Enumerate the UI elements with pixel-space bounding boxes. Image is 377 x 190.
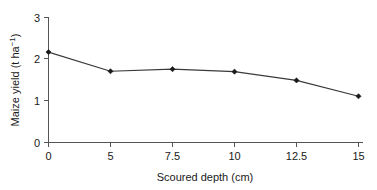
y-axis-title: Maize yield (t ha−1) [8,34,21,127]
x-tick-label-5: 15 [352,150,364,162]
y-tick-label-0: 0 [34,137,40,149]
x-axis-title: Scoured depth (cm) [157,171,254,183]
x-tick-label-2: 7.5 [165,150,180,162]
x-tick-label-3: 10 [228,150,240,162]
y-tick-label-2: 2 [34,53,40,65]
chart-figure: 3 2 1 0 0 5 7.5 10 12.5 15 Scoured depth… [0,0,377,190]
y-tick-label-3: 3 [34,12,40,24]
y-tick-label-1: 1 [34,95,40,107]
x-tick-label-1: 5 [107,150,113,162]
x-tick-label-4: 12.5 [286,150,307,162]
x-tick-label-0: 0 [45,150,51,162]
y-axis-title-main: Maize yield (t ha [9,45,21,126]
y-axis-title-tail: ) [9,34,21,38]
line-chart: 3 2 1 0 0 5 7.5 10 12.5 15 Scoured depth… [0,0,377,190]
chart-background [0,0,377,190]
